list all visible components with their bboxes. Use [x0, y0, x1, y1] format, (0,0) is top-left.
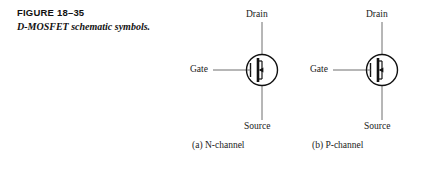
gate-terminal-label: Gate [190, 64, 208, 75]
figure-caption-block: FIGURE 18–35 D-MOSFET schematic symbols. [17, 7, 197, 33]
substrate-arrow-head-icon [259, 67, 264, 72]
sub-caption-p-channel: (b) P-channel [312, 140, 363, 150]
substrate-arrow-head-icon [379, 67, 384, 72]
drain-terminal-label: Drain [246, 9, 268, 20]
mosfet-symbol-n-channel: Drain Source Gate (a) N-channel [190, 0, 320, 171]
mosfet-symbol-p-channel: Drain Source Gate (b) P-channel [310, 0, 430, 171]
gate-terminal-label: Gate [310, 64, 328, 75]
source-terminal-label: Source [364, 121, 390, 132]
drain-terminal-label: Drain [366, 9, 388, 20]
sub-caption-n-channel: (a) N-channel [192, 140, 244, 150]
source-terminal-label: Source [244, 121, 270, 132]
figure-title: D-MOSFET schematic symbols. [17, 20, 197, 33]
figure-number: FIGURE 18–35 [17, 7, 197, 19]
